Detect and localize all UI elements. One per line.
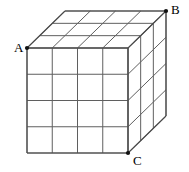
vertex-label-a: A (14, 41, 23, 54)
cube-grid-drawing (0, 0, 189, 172)
vertex-label-b: B (171, 3, 180, 16)
front-face-gridlines (27, 48, 128, 153)
vertex-dot-c (126, 151, 130, 155)
vertex-dot-a (25, 46, 29, 50)
vertex-label-c: C (133, 154, 142, 167)
right-face-gridlines (128, 11, 166, 153)
top-face-gridlines (27, 11, 166, 48)
geometry-figure: A B C (0, 0, 189, 172)
vertex-dot-b (164, 9, 168, 13)
solid-outline-edges (27, 11, 166, 153)
